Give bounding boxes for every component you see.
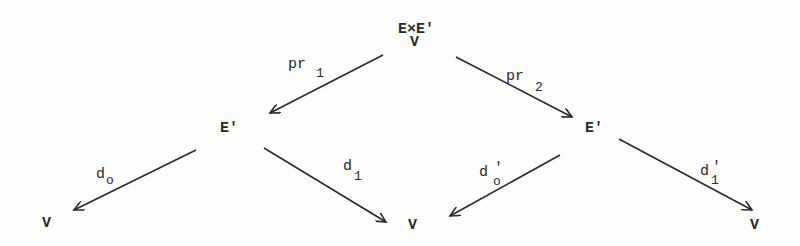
arrows-group: pr1pr2dod1d'od'1: [74, 55, 752, 222]
arrow-subscript-d0: o: [106, 173, 114, 188]
arrow-d1: d1: [264, 148, 386, 222]
arrow-line-pr1: [270, 55, 383, 113]
node-top-fiber-product: E×E' V: [398, 21, 434, 51]
arrow-label-d1: d: [343, 158, 352, 175]
arrow-line-d1: [264, 148, 386, 222]
arrow-subscript-d1: 1: [354, 169, 362, 184]
arrow-subscript-pr2: 2: [535, 80, 543, 95]
arrow-label-d0: d: [96, 166, 105, 183]
arrow-d0prime: d'o: [450, 155, 560, 216]
arrow-line-d0prime: [450, 155, 560, 216]
arrow-label-d0prime: d: [479, 164, 488, 181]
node-left-e-prime: E': [220, 120, 238, 137]
node-right-e-prime: E': [585, 120, 603, 137]
node-bottom-left-v: V: [42, 215, 51, 232]
node-bottom-right-v: V: [750, 217, 759, 234]
arrow-line-d0: [74, 150, 196, 210]
arrow-label-pr1: pr: [288, 56, 306, 73]
arrow-subscript-d1prime: 1: [711, 173, 719, 188]
node-bottom-center-v: V: [408, 217, 417, 234]
arrow-pr2: pr2: [456, 57, 572, 117]
arrow-line-d1prime: [619, 139, 752, 210]
arrow-subscript-d0prime: o: [493, 174, 501, 189]
arrow-subscript-pr1: 1: [316, 66, 324, 81]
arrow-line-pr2: [456, 57, 572, 117]
arrow-pr1: pr1: [270, 55, 383, 113]
arrow-label-d1prime: d: [700, 163, 709, 180]
arrow-d1prime: d'1: [619, 139, 752, 210]
node-top-under-label: V: [410, 34, 419, 51]
commutative-diagram: E×E' V E' E' V V V pr1pr2dod1d'od'1: [0, 0, 800, 246]
arrow-d0: do: [74, 150, 196, 210]
arrow-label-pr2: pr: [506, 68, 524, 85]
